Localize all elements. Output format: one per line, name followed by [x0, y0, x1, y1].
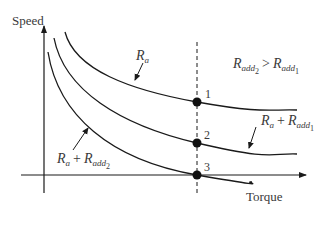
curve-ra-radd2-pointer-arrow	[73, 128, 88, 150]
curve-label-ra-radd1: Ra+Radd1	[260, 113, 314, 133]
curve-ra-radd1-pointer-arrow	[249, 127, 256, 148]
operating-point-1	[193, 98, 202, 107]
curve-label-ra: Ra	[135, 48, 150, 65]
speed-torque-diagram: 1 2 3 Speed Torque Ra Ra+Radd1 Ra+Radd2 …	[0, 0, 330, 226]
resistance-relation-label: Radd2>Radd1	[232, 56, 299, 76]
point-label-1: 1	[205, 87, 211, 101]
curve-label-ra-radd2: Ra+Radd2	[56, 151, 110, 171]
point-label-3: 3	[204, 160, 210, 174]
curve-ra	[65, 32, 297, 110]
curve-ra-pointer-arrow	[135, 63, 143, 80]
point-label-2: 2	[204, 128, 210, 142]
curve-ra-radd1	[54, 38, 297, 155]
operating-point-2	[193, 139, 202, 148]
x-axis-label: Torque	[246, 189, 283, 204]
y-axis-label: Speed	[12, 13, 44, 28]
operating-point-3	[193, 171, 202, 180]
